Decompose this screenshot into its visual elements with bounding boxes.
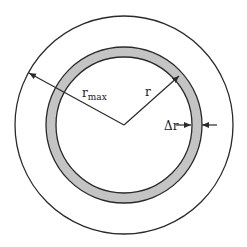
r-max-label: rmax xyxy=(82,86,107,102)
r-label: r xyxy=(145,85,151,99)
annulus-diagram: rmax r Δr xyxy=(0,0,247,247)
r-max-arrow xyxy=(29,73,124,125)
r-max-subscript: max xyxy=(88,92,107,102)
r-arrow xyxy=(124,76,179,125)
delta-r-label: Δr xyxy=(164,119,179,133)
